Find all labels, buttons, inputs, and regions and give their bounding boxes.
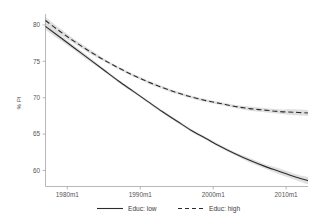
series-line-educ-high (46, 21, 309, 113)
chart-figure: 6065707580 1980m11990m12000m12010m1 % PI… (0, 0, 312, 224)
confidence-bands (46, 17, 309, 184)
line-chart-canvas: 6065707580 1980m11990m12000m12010m1 % PI… (0, 0, 312, 224)
y-tick-label: 65 (33, 130, 41, 137)
y-tick-label: 70 (33, 94, 41, 101)
y-tick-label: 80 (33, 21, 41, 28)
chart-legend: Educ: low Educ: high (97, 205, 240, 213)
x-tick-label: 1980m1 (56, 191, 80, 198)
y-axis-ticks: 6065707580 (33, 21, 46, 174)
y-tick-label: 60 (33, 167, 41, 174)
legend-label-educ-low: Educ: low (128, 205, 157, 212)
y-tick-label: 75 (33, 58, 41, 65)
x-tick-label: 1990m1 (129, 191, 153, 198)
x-axis-ticks: 1980m11990m12000m12010m1 (56, 187, 298, 199)
confidence-band-educ-high (46, 17, 309, 116)
y-axis-title: % PI (15, 96, 22, 109)
legend-label-educ-high: Educ: high (209, 205, 240, 213)
data-series (46, 21, 309, 181)
x-tick-label: 2010m1 (275, 191, 299, 198)
plot-axes (46, 14, 309, 187)
x-tick-label: 2000m1 (202, 191, 226, 198)
